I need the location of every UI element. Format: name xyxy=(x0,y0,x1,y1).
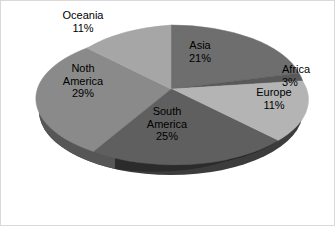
pie-chart-plot-area: Asia 21% Africa 3% Europe 11% South Amer… xyxy=(1,1,335,226)
pie-label-north-america: Noth America 29% xyxy=(47,62,119,100)
pie-label-south-america-line2: America xyxy=(129,118,205,131)
pie-label-north-america-value: 29% xyxy=(47,87,119,100)
pie-label-south-america-line1: South xyxy=(153,105,182,117)
pie-label-asia-name: Asia xyxy=(189,39,210,51)
pie-label-asia: Asia 21% xyxy=(169,39,231,64)
chart-frame: Asia 21% Africa 3% Europe 11% South Amer… xyxy=(0,0,335,226)
pie-label-africa: Africa 3% xyxy=(282,63,335,88)
pie-label-south-america-value: 25% xyxy=(129,130,205,143)
pie-label-europe: Europe 11% xyxy=(241,86,307,111)
pie-label-oceania: Oceania 11% xyxy=(46,9,120,34)
pie-label-europe-value: 11% xyxy=(241,99,307,112)
pie-label-europe-name: Europe xyxy=(256,86,291,98)
pie-label-north-america-line1: Noth xyxy=(71,62,94,74)
pie-label-asia-value: 21% xyxy=(169,52,231,65)
pie-label-africa-name: Africa xyxy=(282,63,310,75)
pie-label-south-america: South America 25% xyxy=(129,105,205,143)
pie-label-oceania-name: Oceania xyxy=(63,9,104,21)
pie-label-oceania-value: 11% xyxy=(46,22,120,35)
pie-label-north-america-line2: America xyxy=(47,75,119,88)
